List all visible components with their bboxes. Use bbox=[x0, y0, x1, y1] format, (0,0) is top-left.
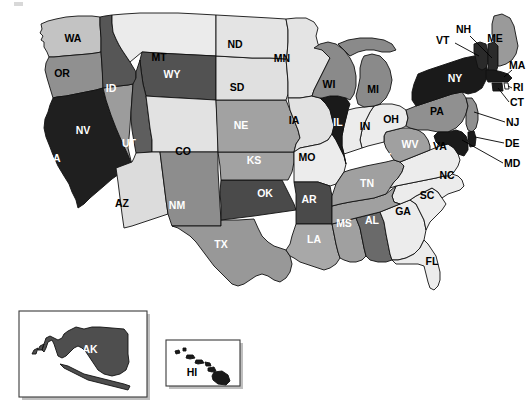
state-AR[interactable] bbox=[294, 182, 332, 224]
hawaii-inset[interactable]: HI bbox=[166, 340, 243, 389]
state-NH[interactable] bbox=[488, 42, 498, 72]
state-DE[interactable] bbox=[468, 131, 476, 147]
state-WY[interactable] bbox=[140, 52, 216, 100]
callout-label-NJ: NJ bbox=[506, 116, 520, 128]
state-CT[interactable] bbox=[492, 83, 503, 91]
alaska-inset[interactable]: AK bbox=[19, 311, 150, 400]
state-KS[interactable] bbox=[218, 152, 294, 180]
callout-label-DE: DE bbox=[505, 137, 520, 149]
state-CO[interactable] bbox=[146, 96, 218, 152]
callout-label-VT: VT bbox=[436, 34, 450, 46]
callout-label-MA: MA bbox=[509, 59, 526, 71]
callout-label-NH: NH bbox=[456, 23, 471, 35]
state-NM[interactable] bbox=[160, 152, 221, 226]
state-WA[interactable] bbox=[40, 16, 101, 57]
callout-label-CT: CT bbox=[510, 96, 525, 108]
map-svg: WA OR CA NV ID MT WY UT CO AZ NM TX OK K… bbox=[0, 0, 526, 407]
state-ND[interactable] bbox=[216, 15, 288, 59]
callout-label-MD: MD bbox=[504, 157, 521, 169]
us-choropleth-map: WA OR CA NV ID MT WY UT CO AZ NM TX OK K… bbox=[0, 0, 526, 407]
callout-label-RI: RI bbox=[513, 81, 524, 93]
image-artifact bbox=[14, 2, 23, 6]
state-NE[interactable] bbox=[216, 100, 300, 152]
state-SD[interactable] bbox=[216, 56, 288, 100]
